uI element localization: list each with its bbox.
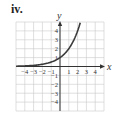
series-line <box>16 23 80 67</box>
y-axis-label: y <box>56 10 62 21</box>
x-tick-label: 4 <box>94 68 98 75</box>
y-tick-label: −3 <box>51 90 58 97</box>
x-tick-label: −3 <box>30 68 37 75</box>
y-tick-label: −2 <box>51 81 58 88</box>
x-tick-label: 1 <box>67 68 70 75</box>
x-tick-label: −4 <box>21 68 29 75</box>
y-tick-label: −1 <box>51 72 58 79</box>
x-axis-label: x <box>106 61 112 72</box>
y-tick-label: 2 <box>55 45 58 52</box>
x-tick-label: 2 <box>76 68 79 75</box>
chart: xy −4−3−2−112344321−1−2−3−4 <box>0 0 115 117</box>
y-tick-label: −4 <box>51 98 59 105</box>
y-tick-label: 3 <box>55 36 58 43</box>
axes: xy <box>16 10 112 111</box>
series <box>16 23 80 67</box>
x-tick-label: 3 <box>85 68 88 75</box>
x-tick-label: −2 <box>39 68 46 75</box>
